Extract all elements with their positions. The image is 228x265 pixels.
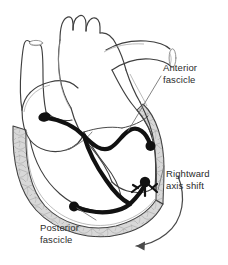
label-posterior-line1: Posterior bbox=[40, 222, 79, 233]
label-posterior-fascicle: Posterior fascicle bbox=[40, 222, 79, 245]
heart-diagram bbox=[0, 0, 228, 265]
label-anterior-fascicle: Anterior fascicle bbox=[163, 62, 197, 85]
myocardium-wall bbox=[13, 104, 164, 237]
label-anterior-line1: Anterior bbox=[163, 62, 197, 73]
label-posterior-line2: fascicle bbox=[40, 234, 79, 246]
aortic-arch bbox=[60, 17, 73, 40]
av-node bbox=[37, 111, 51, 123]
label-rightward-line2: axis shift bbox=[166, 180, 210, 192]
figure-canvas: Anterior fascicle Rightward axis shift P… bbox=[0, 0, 228, 265]
left-ventricle-chamber bbox=[30, 140, 112, 211]
conduction-system bbox=[47, 118, 150, 212]
label-rightward-line1: Rightward bbox=[166, 168, 210, 179]
label-anterior-line2: fascicle bbox=[163, 74, 197, 86]
label-rightward-axis-shift: Rightward axis shift bbox=[166, 168, 210, 191]
anterior-fascicle bbox=[84, 129, 150, 149]
posterior-fascicle-terminus bbox=[69, 202, 79, 212]
right-ventricle-chamber bbox=[126, 70, 140, 102]
anterior-fascicle-terminus bbox=[146, 141, 156, 151]
